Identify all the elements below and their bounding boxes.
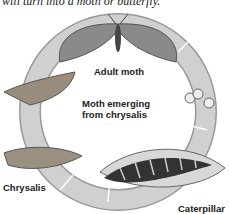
label-adult-moth: Adult moth	[94, 66, 144, 77]
label-emerging-2: from chrysalis	[82, 109, 147, 120]
label-chrysalis: Chrysalis	[3, 182, 46, 193]
chrysalis-icon	[4, 147, 82, 168]
label-caterpillar: Caterpillar	[178, 203, 225, 214]
label-emerging-1: Moth emerging	[82, 98, 150, 109]
